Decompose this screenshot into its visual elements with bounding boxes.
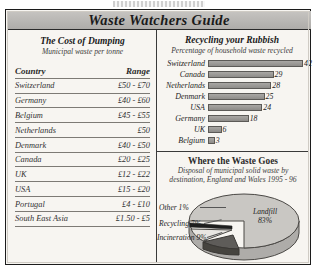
cell-country: Canada xyxy=(15,152,97,167)
cell-range: £15 - £20 xyxy=(97,182,150,197)
pie-label-landfill-value: 83% xyxy=(258,216,272,225)
cell-country: Netherlands xyxy=(15,123,97,138)
bar-fill xyxy=(208,115,249,122)
bar-row: Switzerland42 xyxy=(161,59,303,68)
cell-range: £20 - £25 xyxy=(97,152,150,167)
pie-label-incineration: Incineration 9% xyxy=(157,233,207,242)
cell-range: £50 xyxy=(97,123,150,138)
bar-row: Netherlands28 xyxy=(161,81,303,90)
bar-row: Canada29 xyxy=(161,70,303,79)
cell-country: UK xyxy=(15,167,97,182)
bar-track: 42 xyxy=(208,60,303,67)
cell-range: £1.50 - £5 xyxy=(97,211,150,226)
recycling-panel-subtitle: Percentage of household waste recycled xyxy=(161,46,303,55)
leader-line-other xyxy=(200,207,226,208)
waste-destination-panel: Where the Waste Goes Disposal of municip… xyxy=(157,152,309,263)
cost-panel-subtitle: Municipal waste per tonne xyxy=(15,47,150,56)
cell-range: £40 - £60 xyxy=(97,93,150,108)
recycling-panel-title: Recycling your Rubbish xyxy=(161,35,303,46)
recycling-panel: Recycling your Rubbish Percentage of hou… xyxy=(157,30,309,152)
bar-label: USA xyxy=(161,103,208,112)
pie-label-other: Other 1% xyxy=(159,203,189,212)
table-row: Netherlands£50 xyxy=(15,123,150,138)
table-row: Germany£40 - £60 xyxy=(15,93,150,108)
bar-track: 24 xyxy=(208,104,303,111)
infographic-frame: Waste Watchers Guide The Cost of Dumping… xyxy=(5,9,311,265)
table-header-row: Country Range xyxy=(15,63,150,78)
bar-row: UK6 xyxy=(161,125,303,134)
waste-panel-subtitle-line1: Disposal of municipal solid waste by xyxy=(161,167,305,176)
bar-value-label: 42 xyxy=(304,59,312,68)
panels-container: The Cost of Dumping Municipal waste per … xyxy=(7,30,309,263)
cell-country: Denmark xyxy=(15,137,97,152)
bar-track: 18 xyxy=(208,115,303,122)
cost-table-body: Switzerland£50 - £70Germany£40 - £60Belg… xyxy=(15,78,150,226)
bar-label: Netherlands xyxy=(161,81,208,90)
cost-panel-title: The Cost of Dumping xyxy=(15,36,150,47)
charts-column: Recycling your Rubbish Percentage of hou… xyxy=(157,30,309,263)
bar-row: Belgium3 xyxy=(161,136,303,145)
bar-fill xyxy=(208,126,222,133)
table-row: Portugal£4 - £10 xyxy=(15,197,150,212)
cell-range: £4 - £10 xyxy=(97,197,150,212)
table-row: Belgium£45 - £55 xyxy=(15,108,150,123)
column-header-country: Country xyxy=(15,63,97,78)
bar-label: UK xyxy=(161,125,208,134)
bar-fill xyxy=(208,82,271,89)
pie-chart-graphic xyxy=(185,183,303,261)
pie-label-landfill: Landfill83% xyxy=(253,207,277,225)
bar-label: Germany xyxy=(161,114,208,123)
bar-row: Germany18 xyxy=(161,114,303,123)
bar-row: Denmark25 xyxy=(161,92,303,101)
bar-label: Belgium xyxy=(161,136,208,145)
bar-track: 25 xyxy=(208,93,303,100)
bar-value-label: 25 xyxy=(266,92,274,101)
cell-country: Germany xyxy=(15,93,97,108)
bar-fill xyxy=(208,60,303,67)
bar-track: 3 xyxy=(208,137,303,144)
pie-label-recycling: Recycling 7% xyxy=(159,219,201,228)
table-row: Switzerland£50 - £70 xyxy=(15,78,150,93)
cell-country: Portugal xyxy=(15,197,97,212)
cell-range: £40 - £50 xyxy=(97,137,150,152)
bar-label: Switzerland xyxy=(161,59,208,68)
cell-country: USA xyxy=(15,182,97,197)
cost-table: Country Range Switzerland£50 - £70German… xyxy=(15,63,150,227)
bar-fill xyxy=(208,137,215,144)
cost-of-dumping-panel: The Cost of Dumping Municipal waste per … xyxy=(7,30,157,263)
table-row: USA£15 - £20 xyxy=(15,182,150,197)
cell-range: £50 - £70 xyxy=(97,78,150,93)
bar-fill xyxy=(208,93,265,100)
cell-range: £12 - £22 xyxy=(97,167,150,182)
recycling-bar-chart: Switzerland42Canada29Netherlands28Denmar… xyxy=(161,59,303,145)
table-row: UK£12 - £22 xyxy=(15,167,150,182)
page-title: Waste Watchers Guide xyxy=(7,11,311,30)
bar-track: 29 xyxy=(208,71,303,78)
cropped-text-fragment xyxy=(113,1,205,7)
cell-country: South East Asia xyxy=(15,211,97,226)
bar-value-label: 29 xyxy=(275,70,283,79)
pie-label-landfill-name: Landfill xyxy=(253,207,277,216)
bar-fill xyxy=(208,104,262,111)
pie-chart: Landfill83% Other 1% Recycling 7% Incine… xyxy=(157,183,309,263)
bar-value-label: 6 xyxy=(223,125,227,134)
bar-value-label: 24 xyxy=(263,103,271,112)
bar-fill xyxy=(208,71,274,78)
cell-country: Belgium xyxy=(15,108,97,123)
bar-track: 28 xyxy=(208,82,303,89)
table-row: South East Asia£1.50 - £5 xyxy=(15,211,150,226)
column-header-range: Range xyxy=(97,63,150,78)
bar-label: Denmark xyxy=(161,92,208,101)
bar-row: USA24 xyxy=(161,103,303,112)
bar-value-label: 28 xyxy=(272,81,280,90)
bar-track: 6 xyxy=(208,126,303,133)
cell-range: £45 - £55 xyxy=(97,108,150,123)
header-banner: Waste Watchers Guide xyxy=(7,11,311,30)
table-row: Denmark£40 - £50 xyxy=(15,137,150,152)
bar-label: Canada xyxy=(161,70,208,79)
cell-country: Switzerland xyxy=(15,78,97,93)
table-row: Canada£20 - £25 xyxy=(15,152,150,167)
bar-value-label: 18 xyxy=(250,114,258,123)
bar-value-label: 3 xyxy=(216,136,220,145)
